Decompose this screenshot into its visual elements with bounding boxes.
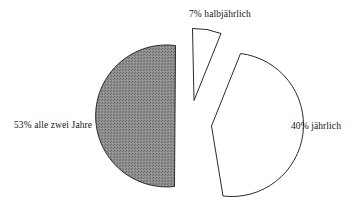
pie-label-jaehrlich: 40% jährlich [291,120,341,132]
pie-chart: 7% halbjährlich 53% alle zwei Jahre 40% … [0,0,356,207]
pie-chart-canvas [0,0,356,207]
pie-slice-jaehrlich [212,54,304,197]
pie-slice-halbjaehrlich [193,28,222,100]
pie-label-alle-zwei-jahre: 53% alle zwei Jahre [14,119,92,131]
pie-slice-alle-zwei-jahre [96,45,176,187]
pie-label-halbjaehrlich: 7% halbjährlich [189,8,251,20]
